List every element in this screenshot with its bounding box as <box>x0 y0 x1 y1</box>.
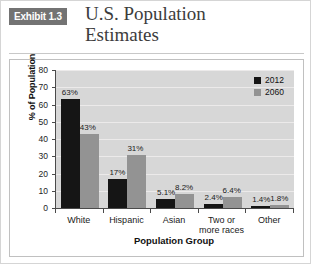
bar-value-label: 63% <box>62 89 78 97</box>
exhibit-title-line-2: Estimates <box>85 24 305 45</box>
exhibit-header: Exhibit 1.3 U.S. Population Estimates <box>1 1 311 54</box>
bar <box>204 204 223 208</box>
y-axis-tick-label: 50 <box>26 118 48 126</box>
exhibit-number-badge: Exhibit 1.3 <box>9 8 67 25</box>
legend-swatch-2060 <box>254 89 261 96</box>
exhibit-figure: Exhibit 1.3 U.S. Population Estimates % … <box>0 0 311 264</box>
x-axis-category-label: Hispanic <box>103 215 151 225</box>
x-axis-category-label: Asian <box>150 215 198 225</box>
bar-value-label: 8.2% <box>175 184 193 192</box>
header-divider <box>9 53 304 54</box>
x-axis-category-label-line: Other <box>245 215 293 225</box>
exhibit-title: U.S. Population Estimates <box>85 3 305 45</box>
bar <box>175 194 194 208</box>
plot-area: 63%17%5.1%2.4%1.4%43%31%8.2%6.4%1.8% 201… <box>55 70 294 209</box>
x-axis-tick-mark <box>293 209 294 213</box>
legend-item-2060: 2060 <box>254 88 284 97</box>
x-axis-tick-mark <box>150 209 151 213</box>
bar <box>61 99 80 208</box>
bar-value-label: 5.1% <box>157 189 175 197</box>
x-axis-title: Population Group <box>55 235 293 246</box>
y-axis-tick-label: 0 <box>26 204 48 212</box>
x-axis-tick-mark <box>55 209 56 213</box>
bar-value-label: 43% <box>80 124 96 132</box>
bar <box>223 197 242 208</box>
chart-frame: % of Population 01020304050607080 63%17%… <box>9 59 304 257</box>
bar <box>156 199 175 208</box>
bar-value-label: 1.8% <box>270 195 288 203</box>
x-axis-tick-mark <box>198 209 199 213</box>
chart-legend: 2012 2060 <box>254 76 284 100</box>
gridline <box>56 70 294 71</box>
gridline <box>56 105 294 106</box>
bar-value-label: 17% <box>109 169 125 177</box>
bar-value-label: 1.4% <box>252 196 270 204</box>
x-axis-category-label-line: Two or <box>198 215 246 225</box>
bar <box>80 134 99 208</box>
x-axis-category-label-line: Asian <box>150 215 198 225</box>
x-axis-category-label-line: White <box>55 215 103 225</box>
legend-swatch-2012 <box>254 77 261 84</box>
legend-item-2012: 2012 <box>254 76 284 85</box>
x-axis-tick-mark <box>103 209 104 213</box>
y-axis-tick-label: 70 <box>26 83 48 91</box>
y-axis-tick-label: 20 <box>26 170 48 178</box>
y-axis-tick-label: 60 <box>26 101 48 109</box>
x-axis-category-label: Two ormore races <box>198 215 246 235</box>
x-axis-category-label-line: more races <box>198 225 246 235</box>
x-axis-tick-mark <box>245 209 246 213</box>
bar <box>270 205 289 208</box>
bar <box>127 155 146 208</box>
y-axis-tick-label: 10 <box>26 187 48 195</box>
y-axis-tick-label: 80 <box>26 66 48 74</box>
bar-value-label: 2.4% <box>205 194 223 202</box>
x-axis-category-label: White <box>55 215 103 225</box>
bar-value-label: 6.4% <box>223 187 241 195</box>
x-axis-category-label-line: Hispanic <box>103 215 151 225</box>
legend-label-2012: 2012 <box>265 76 284 85</box>
y-axis-tick-label: 30 <box>26 152 48 160</box>
y-axis-tick-label: 40 <box>26 135 48 143</box>
bar <box>251 206 270 208</box>
bar <box>108 179 127 208</box>
x-axis-category-label: Other <box>245 215 293 225</box>
exhibit-title-line-1: U.S. Population <box>85 3 305 24</box>
bar-value-label: 31% <box>127 145 143 153</box>
legend-label-2060: 2060 <box>265 88 284 97</box>
